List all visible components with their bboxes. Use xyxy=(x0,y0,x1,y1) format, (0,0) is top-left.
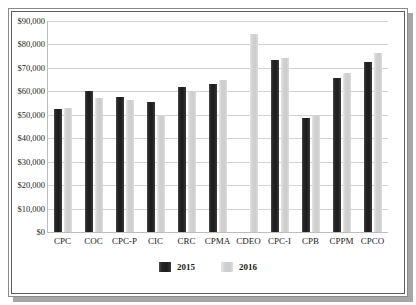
gridline xyxy=(47,232,388,233)
bar-CIC-2015 xyxy=(147,102,155,232)
y-axis-tick-label: $90,000 xyxy=(1,17,45,26)
bar-group xyxy=(326,21,357,232)
bar-CPMA-2015 xyxy=(209,84,217,232)
bar-group xyxy=(295,21,326,232)
x-axis-tick-label-CDEO: CDEO xyxy=(233,234,264,248)
chart-legend: 20152016 xyxy=(0,262,416,272)
y-axis-tick-label: $80,000 xyxy=(1,40,45,49)
y-axis-tick-label: $10,000 xyxy=(1,204,45,213)
y-axis-tick-label: $70,000 xyxy=(1,64,45,73)
x-axis-tick-label-CIC: CIC xyxy=(140,234,171,248)
y-axis-tick-labels: $0$10,000$20,000$30,000$40,000$50,000$60… xyxy=(0,21,45,232)
y-axis-tick-label: $50,000 xyxy=(1,111,45,120)
bar-CPMA-2016 xyxy=(219,80,227,232)
bar-group xyxy=(233,21,264,232)
legend-label: 2015 xyxy=(177,263,195,272)
chart-figure: $0$10,000$20,000$30,000$40,000$50,000$60… xyxy=(0,0,416,305)
light-swatch xyxy=(221,262,233,272)
legend-label: 2016 xyxy=(239,263,257,272)
bar-CPCO-2015 xyxy=(364,62,372,232)
bar-groups xyxy=(47,21,388,232)
legend-item-2015[interactable]: 2015 xyxy=(159,262,195,272)
bar-CPC-2015 xyxy=(54,109,62,232)
dark-swatch xyxy=(159,262,171,272)
x-axis-tick-label-CPC-P: CPC-P xyxy=(109,234,140,248)
bar-CPPM-2015 xyxy=(333,78,341,232)
bar-CPC-I-2015 xyxy=(271,60,279,232)
bar-CRC-2016 xyxy=(188,91,196,232)
bar-CPC-2016 xyxy=(64,108,72,232)
bar-CPC-P-2016 xyxy=(126,100,134,232)
bar-COC-2016 xyxy=(95,98,103,232)
bar-CIC-2016 xyxy=(157,116,165,232)
y-axis-tick-label: $30,000 xyxy=(1,157,45,166)
x-axis-tick-label-CPPM: CPPM xyxy=(326,234,357,248)
bar-group xyxy=(140,21,171,232)
bar-group xyxy=(357,21,388,232)
x-axis-tick-labels: CPCCOCCPC-PCICCRCCPMACDEOCPC-ICPBCPPMCPC… xyxy=(47,234,388,250)
bar-COC-2015 xyxy=(85,91,93,232)
x-axis-tick-label-CPCO: CPCO xyxy=(357,234,388,248)
y-axis-tick-label: $40,000 xyxy=(1,134,45,143)
bar-group xyxy=(47,21,78,232)
y-axis-tick-label: $20,000 xyxy=(1,181,45,190)
bar-group xyxy=(264,21,295,232)
bar-CPC-I-2016 xyxy=(281,58,289,232)
plot-area xyxy=(47,21,388,232)
y-axis-tick-label: $60,000 xyxy=(1,87,45,96)
x-axis-tick-label-CPMA: CPMA xyxy=(202,234,233,248)
bar-group xyxy=(109,21,140,232)
bar-CDEO-2016 xyxy=(250,34,258,232)
legend-item-2016[interactable]: 2016 xyxy=(221,262,257,272)
y-axis-tick-label: $0 xyxy=(1,228,45,237)
bar-group xyxy=(78,21,109,232)
bar-CPB-2016 xyxy=(312,116,320,232)
bar-CPPM-2016 xyxy=(343,73,351,232)
bar-CPC-P-2015 xyxy=(116,97,124,232)
x-axis-tick-label-CRC: CRC xyxy=(171,234,202,248)
bar-CPB-2015 xyxy=(302,118,310,232)
bar-CPCO-2016 xyxy=(374,53,382,232)
x-axis-tick-label-COC: COC xyxy=(78,234,109,248)
x-axis-tick-label-CPB: CPB xyxy=(295,234,326,248)
x-axis-tick-label-CPC: CPC xyxy=(47,234,78,248)
bar-CRC-2015 xyxy=(178,87,186,232)
bar-group xyxy=(202,21,233,232)
x-axis-tick-label-CPC-I: CPC-I xyxy=(264,234,295,248)
bar-group xyxy=(171,21,202,232)
